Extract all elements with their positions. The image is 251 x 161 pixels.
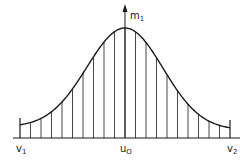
axis-label-m1: m1 xyxy=(130,11,144,23)
label-v2: v2 xyxy=(227,144,237,156)
axis-arrow-icon xyxy=(123,4,128,12)
label-u0-sub: O xyxy=(126,148,132,156)
label-v2-sub: 2 xyxy=(233,148,237,156)
label-v1: v1 xyxy=(16,144,26,156)
axis-label-sub: 1 xyxy=(140,15,144,23)
axis-label-base: m xyxy=(130,10,140,21)
label-u0: uO xyxy=(120,144,132,156)
label-v1-sub: 1 xyxy=(22,148,26,156)
bell-curve-diagram xyxy=(0,0,251,161)
